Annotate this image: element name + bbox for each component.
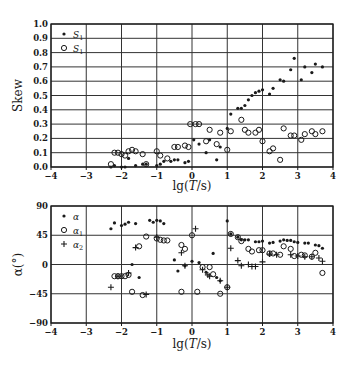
filled-dot-marker — [176, 158, 179, 161]
filled-dot-marker — [183, 161, 186, 164]
filled-dot-marker — [254, 91, 257, 94]
filled-dot-marker — [120, 224, 123, 227]
filled-dot-marker — [162, 222, 165, 225]
open-circle-marker — [182, 246, 187, 251]
open-circle-marker — [278, 157, 283, 162]
filled-dot-marker — [243, 104, 246, 107]
y-tick-label: 0.6 — [33, 76, 48, 86]
open-circle-marker — [61, 227, 66, 232]
filled-dot-marker — [109, 227, 112, 230]
open-circle-marker — [320, 129, 325, 134]
filled-dot-marker — [321, 65, 324, 68]
x-tick-label: 1 — [224, 171, 230, 181]
filled-dot-marker — [145, 163, 148, 166]
filled-dot-marker — [282, 238, 285, 241]
x-tick-label: 0 — [189, 327, 195, 337]
filled-dot-marker — [205, 151, 208, 154]
open-circle-marker — [313, 250, 318, 255]
filled-dot-marker — [197, 143, 200, 146]
open-circle-marker — [246, 246, 251, 251]
plus-marker — [238, 263, 244, 269]
open-circle-marker — [144, 234, 149, 239]
filled-dot-marker — [197, 261, 200, 264]
y-tick-label: 0.5 — [33, 91, 48, 101]
filled-dot-marker — [226, 219, 229, 222]
filled-dot-marker — [123, 165, 126, 168]
filled-dot-marker — [127, 221, 130, 224]
legend: αα1α2 — [61, 212, 83, 252]
filled-dot-marker — [289, 239, 292, 242]
legend-label: S1 — [73, 30, 83, 42]
filled-dot-marker — [152, 221, 155, 224]
open-circle-marker — [239, 117, 244, 122]
x-tick-label: 3 — [295, 171, 301, 181]
open-circle-marker — [158, 153, 163, 158]
open-circle-marker — [249, 249, 254, 254]
filled-dot-marker — [236, 107, 239, 110]
series-α — [109, 219, 324, 283]
filled-dot-marker — [307, 241, 310, 244]
x-tick-label: 4 — [330, 171, 336, 181]
filled-dot-marker — [176, 269, 179, 272]
filled-dot-marker — [303, 241, 306, 244]
filled-dot-marker — [236, 236, 239, 239]
open-circle-marker — [281, 126, 286, 131]
open-circle-marker — [207, 265, 212, 270]
filled-dot-marker — [300, 78, 303, 81]
x-tick-label: −3 — [80, 327, 93, 337]
y-tick-label: 0.8 — [33, 48, 48, 58]
open-circle-marker — [270, 146, 275, 151]
open-circle-marker — [175, 144, 180, 149]
filled-dot-marker — [261, 88, 264, 91]
filled-dot-marker — [113, 221, 116, 224]
filled-dot-marker — [187, 160, 190, 163]
filled-dot-marker — [303, 65, 306, 68]
y-axis-label: α(°) — [11, 253, 25, 276]
filled-dot-marker — [279, 78, 282, 81]
y-tick-label: 0.3 — [33, 119, 48, 129]
open-circle-marker — [207, 127, 212, 132]
open-circle-marker — [302, 132, 307, 137]
filled-dot-marker — [247, 238, 250, 241]
filled-dot-marker — [271, 241, 274, 244]
y-tick-label: 0.1 — [33, 148, 48, 158]
filled-dot-marker — [268, 92, 271, 95]
filled-dot-marker — [289, 68, 292, 71]
y-tick-label: 0 — [42, 260, 48, 270]
filled-dot-marker — [250, 94, 253, 97]
x-tick-label: 1 — [224, 327, 230, 337]
y-tick-label: 1.0 — [33, 19, 48, 29]
legend-label: α2 — [73, 240, 83, 252]
filled-dot-marker — [134, 164, 137, 167]
x-tick-label: 3 — [295, 327, 301, 337]
filled-dot-marker — [148, 219, 151, 222]
open-circle-marker — [292, 133, 297, 138]
filled-dot-marker — [229, 232, 232, 235]
open-circle-marker — [228, 129, 233, 134]
x-tick-label: 2 — [260, 327, 266, 337]
filled-dot-marker — [286, 239, 289, 242]
x-tick-label: −4 — [44, 327, 57, 337]
legend-label: S1 — [73, 44, 83, 56]
filled-dot-marker — [215, 276, 218, 279]
filled-dot-marker — [240, 107, 243, 110]
filled-dot-marker — [155, 164, 158, 167]
filled-dot-marker — [138, 276, 141, 279]
open-circle-marker — [253, 130, 258, 135]
filled-dot-marker — [130, 263, 133, 266]
open-circle-marker — [246, 130, 251, 135]
y-tick-label: 0.7 — [33, 62, 48, 72]
plus-marker — [316, 255, 322, 261]
filled-dot-marker — [293, 240, 296, 243]
filled-dot-marker — [257, 90, 260, 93]
filled-dot-marker — [314, 62, 317, 65]
open-circle-marker — [320, 270, 325, 275]
filled-dot-marker — [134, 222, 137, 225]
open-circle-marker — [309, 129, 314, 134]
plus-marker — [133, 245, 139, 251]
x-axis-label: lg(T/s) — [172, 179, 211, 193]
y-tick-label: 45 — [36, 230, 48, 240]
x-tick-label: −3 — [80, 171, 93, 181]
x-tick-label: −1 — [150, 171, 163, 181]
filled-dot-marker — [205, 271, 208, 274]
